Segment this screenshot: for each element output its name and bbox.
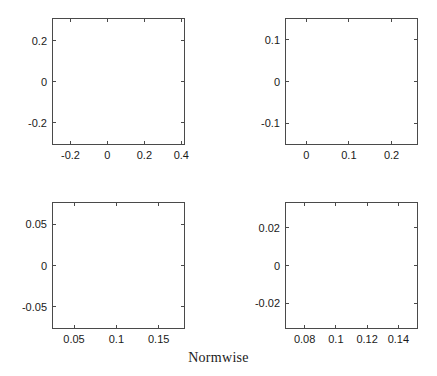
panel-bottom-left-frame xyxy=(53,203,185,329)
panel-top-right-yticklabel: 0.1 xyxy=(265,34,280,46)
panel-top-right-xticklabel: 0.1 xyxy=(341,149,356,161)
panel-bottom-right-yticklabel: -0.02 xyxy=(255,297,280,309)
panel-top-right-yticklabel: -0.1 xyxy=(261,117,280,129)
panel-bottom-left-yticklabel: 0 xyxy=(41,260,47,272)
panel-bottom-left-xticklabel: 0.1 xyxy=(109,333,124,345)
panel-top-left-yticklabel: 0 xyxy=(41,76,47,88)
panel-bottom-right-yticklabel: 0 xyxy=(274,260,280,272)
panel-bottom-right-yticklabel: 0.02 xyxy=(259,222,280,234)
panel-bottom-right-xticklabel: 0.14 xyxy=(388,333,409,345)
panel-bottom-right-plot: 0.080.10.120.140.020-0.02 xyxy=(285,202,418,329)
panel-top-right-yticklabel: 0 xyxy=(274,76,280,88)
panel-bottom-left-plot: 0.050.10.150.050-0.05 xyxy=(52,202,185,329)
panel-bottom-left-yticklabel: 0.05 xyxy=(26,218,47,230)
panel-top-right: 00.10.20.10-0.1 xyxy=(285,18,418,145)
panel-bottom-left: 0.050.10.150.050-0.05 xyxy=(52,202,185,329)
panel-bottom-left-yticklabel: -0.05 xyxy=(22,301,47,313)
panel-top-left-xticklabel: 0.4 xyxy=(174,149,189,161)
panel-top-left-xticklabel: 0.2 xyxy=(137,149,152,161)
panel-top-left: -0.200.20.40.20-0.2 xyxy=(52,18,185,145)
panel-top-right-xticklabel: 0.2 xyxy=(384,149,399,161)
panel-bottom-right-frame xyxy=(286,203,418,329)
panel-top-left-frame xyxy=(53,19,185,145)
panel-top-right-frame xyxy=(286,19,418,145)
panel-top-left-yticklabel: -0.2 xyxy=(28,117,47,129)
panel-top-left-plot: -0.200.20.40.20-0.2 xyxy=(52,18,185,145)
figure-caption: Normwise xyxy=(0,350,437,366)
panel-top-right-plot: 00.10.20.10-0.1 xyxy=(285,18,418,145)
panel-bottom-left-xticklabel: 0.15 xyxy=(148,333,169,345)
panel-bottom-right-xticklabel: 0.1 xyxy=(328,333,343,345)
panel-bottom-right-xticklabel: 0.12 xyxy=(356,333,377,345)
panel-bottom-right-xticklabel: 0.08 xyxy=(294,333,315,345)
panel-bottom-left-xticklabel: 0.05 xyxy=(63,333,84,345)
panel-top-left-xticklabel: 0 xyxy=(104,149,110,161)
panel-top-left-yticklabel: 0.2 xyxy=(32,35,47,47)
panel-top-left-xticklabel: -0.2 xyxy=(61,149,80,161)
panel-bottom-right: 0.080.10.120.140.020-0.02 xyxy=(285,202,418,329)
figure-canvas: -0.200.20.40.20-0.2 00.10.20.10-0.1 0.05… xyxy=(0,0,437,376)
panel-top-right-xticklabel: 0 xyxy=(303,149,309,161)
